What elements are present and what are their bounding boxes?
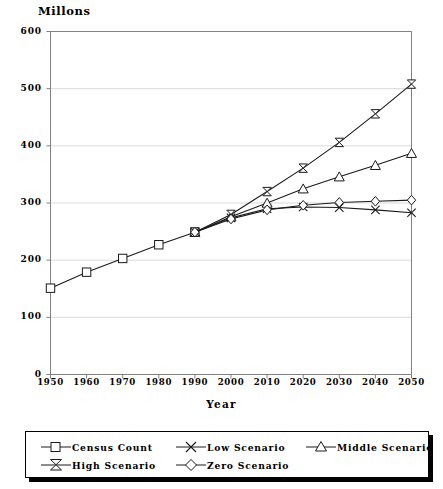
bowtie-marker bbox=[299, 164, 307, 172]
triangle-marker bbox=[407, 148, 417, 157]
bowtie-marker-icon bbox=[40, 457, 72, 473]
legend-row-1: Census Count Low Scenario Middle Scenari… bbox=[40, 438, 433, 456]
diamond-marker bbox=[407, 195, 415, 205]
square-marker bbox=[119, 254, 127, 262]
x-tick-label: 2050 bbox=[390, 377, 434, 387]
legend-item-census-count[interactable]: Census Count bbox=[40, 438, 175, 456]
diamond-marker bbox=[299, 200, 307, 210]
legend-item-middle-scenario[interactable]: Middle Scenario bbox=[305, 438, 433, 456]
series-middle-scenario bbox=[190, 148, 417, 236]
bowtie-marker bbox=[371, 110, 379, 118]
triangle-marker bbox=[370, 160, 380, 169]
y-tick-label: 600 bbox=[8, 26, 42, 36]
series-zero-scenario bbox=[191, 195, 416, 237]
chart-legend: Census Count Low Scenario Middle Scenari… bbox=[25, 431, 429, 478]
square-marker bbox=[82, 268, 90, 276]
legend-row-2: High Scenario Zero Scenario bbox=[40, 456, 305, 474]
diamond-marker bbox=[371, 196, 379, 206]
y-tick-label: 200 bbox=[8, 254, 42, 264]
y-tick-label: 300 bbox=[8, 197, 42, 207]
square-marker bbox=[46, 284, 54, 292]
bowtie-marker bbox=[335, 138, 343, 146]
legend-label: Low Scenario bbox=[207, 442, 285, 453]
legend-item-high-scenario[interactable]: High Scenario bbox=[40, 456, 175, 474]
y-tick-label: 100 bbox=[8, 311, 42, 321]
x-axis-title: Year bbox=[0, 398, 443, 410]
bowtie-marker bbox=[263, 187, 271, 195]
triangle-marker-icon bbox=[305, 439, 337, 455]
diamond-marker bbox=[335, 198, 343, 208]
legend-item-zero-scenario[interactable]: Zero Scenario bbox=[175, 456, 305, 474]
legend-label: Zero Scenario bbox=[207, 460, 289, 471]
bowtie-marker bbox=[407, 80, 415, 88]
x-marker-icon bbox=[175, 439, 207, 455]
legend-item-low-scenario[interactable]: Low Scenario bbox=[175, 438, 305, 456]
series-high-scenario bbox=[191, 80, 416, 236]
legend-label: Middle Scenario bbox=[337, 442, 433, 453]
triangle-marker bbox=[298, 184, 308, 193]
square-marker-icon bbox=[40, 439, 72, 455]
triangle-marker bbox=[334, 172, 344, 181]
plot-area bbox=[0, 0, 443, 400]
legend-label: High Scenario bbox=[72, 460, 156, 471]
y-tick-label: 400 bbox=[8, 140, 42, 150]
square-marker bbox=[155, 241, 163, 249]
diamond-marker-icon bbox=[175, 457, 207, 473]
legend-label: Census Count bbox=[72, 442, 153, 453]
y-tick-label: 500 bbox=[8, 83, 42, 93]
population-projection-chart: Millons 0100200300400500600 195019601970… bbox=[0, 0, 443, 489]
